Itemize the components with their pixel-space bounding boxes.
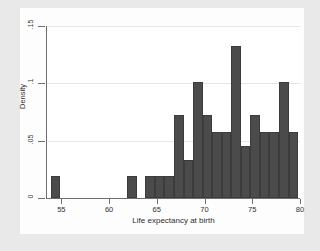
x-axis-tick-label: 60 — [97, 205, 121, 214]
histogram-bar — [127, 176, 137, 198]
histogram-bar — [155, 176, 165, 198]
y-axis-title: Density — [18, 74, 27, 120]
histogram-bar — [231, 46, 241, 199]
y-axis-tick — [38, 83, 45, 84]
histogram-bar — [174, 115, 184, 198]
gridline-y — [47, 26, 300, 27]
y-axis-tick-label: 0 — [27, 187, 34, 207]
gridline-y — [47, 83, 300, 84]
histogram-bar — [222, 132, 232, 199]
histogram-figure: Density Life expectancy at birth 0.05.1.… — [0, 0, 320, 251]
histogram-bar — [193, 82, 203, 198]
x-axis-tick-label: 75 — [240, 205, 264, 214]
histogram-bar — [260, 132, 270, 199]
x-axis-tick-label: 65 — [145, 205, 169, 214]
plot-panel — [47, 26, 300, 198]
histogram-bar — [184, 160, 194, 198]
y-axis-tick-label: .15 — [27, 15, 34, 35]
x-axis-tick — [109, 199, 110, 204]
x-axis-tick — [157, 199, 158, 204]
histogram-bar — [289, 132, 299, 199]
y-axis-line — [46, 26, 47, 199]
histogram-bar — [241, 146, 251, 198]
x-axis-tick-label: 70 — [193, 205, 217, 214]
histogram-bar — [250, 115, 260, 198]
x-axis-tick-label: 80 — [288, 205, 312, 214]
histogram-bar — [269, 132, 279, 199]
x-axis-line — [46, 198, 300, 199]
y-axis-tick — [38, 26, 45, 27]
histogram-bar — [212, 132, 222, 199]
histogram-bar — [164, 176, 174, 198]
y-axis-tick-label: .05 — [27, 129, 34, 149]
histogram-bar — [279, 82, 289, 198]
x-axis-title: Life expectancy at birth — [47, 216, 300, 225]
histogram-bar — [145, 176, 155, 198]
y-axis-tick-label: .1 — [27, 72, 34, 92]
x-axis-tick — [61, 199, 62, 204]
y-axis-tick — [38, 198, 45, 199]
x-axis-tick — [205, 199, 206, 204]
histogram-bar — [51, 176, 61, 198]
x-axis-tick — [300, 199, 301, 204]
y-axis-tick — [38, 141, 45, 142]
x-axis-tick-label: 55 — [49, 205, 73, 214]
histogram-bar — [203, 115, 213, 198]
x-axis-tick — [252, 199, 253, 204]
